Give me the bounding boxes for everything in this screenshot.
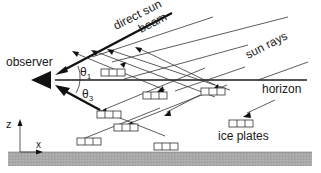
diagram-canvas: z x horizon observer direct sun beam θ1 …: [0, 0, 321, 173]
ice-plate-reflection-diagram: z x horizon observer direct sun beam θ1 …: [0, 0, 321, 173]
theta3-arc: [76, 80, 80, 93]
axis-z-label: z: [6, 118, 12, 130]
axis-x-label: x: [36, 139, 41, 150]
ground-surface: [8, 152, 312, 166]
horizon-label: horizon: [262, 82, 301, 96]
observer-label: observer: [6, 55, 53, 69]
observer-eye-icon: [31, 71, 51, 89]
theta1-label: θ1: [80, 65, 92, 81]
reflected-beam-arrow-icon: [55, 85, 70, 96]
direct-beam-arrow-icon: [55, 66, 68, 75]
sun-rays-label: sun rays: [243, 29, 290, 62]
ice-plates-label: ice plates: [218, 129, 269, 143]
theta3-label: θ3: [82, 87, 94, 103]
z-axis-arrow-icon: [18, 119, 23, 126]
